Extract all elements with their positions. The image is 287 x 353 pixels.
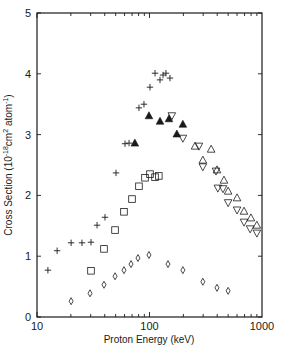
open-square-marker [88, 267, 95, 274]
open-square-marker [129, 196, 136, 203]
open-triangle-down-marker [246, 226, 254, 233]
open-diamond-marker [136, 255, 140, 262]
open-triangle-down-marker [253, 230, 261, 237]
open-triangle-up-marker [233, 194, 241, 201]
open-triangle-down-marker [233, 207, 241, 214]
y-axis-title-close: ) [3, 94, 14, 97]
filled-triangle-marker [131, 139, 139, 146]
open-triangle-up-marker [220, 176, 228, 183]
y-axis-title-mid: cm [3, 133, 14, 146]
x-tick-label: 10 [31, 320, 43, 332]
open-diamond-marker [88, 290, 92, 297]
open-diamond-marker [201, 278, 205, 285]
plus-marker [68, 240, 74, 246]
y-tick-label: 0 [25, 311, 31, 323]
y-tick-label: 1 [25, 250, 31, 262]
plus-marker [122, 141, 128, 147]
plus-marker [79, 240, 85, 246]
open-diamond-marker [69, 298, 73, 305]
open-triangle-down-marker [224, 200, 232, 207]
y-tick-label: 4 [25, 68, 31, 80]
plot-frame [37, 13, 262, 317]
open-diamond-marker [166, 261, 170, 268]
plus-marker [94, 222, 100, 228]
plus-marker [152, 70, 158, 76]
y-axis-title-tail: atom [3, 104, 14, 129]
plot-border [37, 13, 262, 317]
open-triangle-up-marker [253, 221, 261, 228]
y-tick-label: 2 [25, 189, 31, 201]
y-axis-title: Cross Section (10-18cm2 atom-1) [2, 94, 14, 235]
filled-triangle-marker [156, 117, 164, 124]
open-diamond-marker [113, 273, 117, 280]
filled-triangle-marker [165, 115, 173, 122]
open-diamond-marker [122, 267, 126, 274]
plus-marker [167, 75, 173, 81]
plus-marker [102, 214, 108, 220]
plus-marker [45, 267, 51, 273]
chart: 101001000 012345 Proton Energy (keV) Cro… [0, 0, 287, 353]
y-tick-label: 3 [25, 129, 31, 141]
open-diamond-marker [129, 261, 133, 268]
y-tick-labels: 012345 [25, 7, 31, 323]
open-triangle-down-marker [199, 164, 207, 171]
open-square-marker [121, 209, 128, 216]
open-diamond-marker [147, 251, 151, 258]
plus-marker [54, 248, 60, 254]
plus-marker [147, 84, 153, 90]
open-triangle-up-marker [247, 214, 255, 221]
open-diamond-marker [181, 267, 185, 274]
open-square-marker [101, 246, 108, 253]
filled-triangle-marker [179, 120, 187, 127]
open-triangle-up-marker [240, 207, 248, 214]
x-tick-label: 1000 [250, 320, 274, 332]
axis-ticks [37, 13, 262, 317]
open-triangle-up-marker [199, 156, 207, 163]
open-diamond-marker [215, 284, 219, 291]
filled-triangle-marker [145, 112, 153, 119]
open-triangle-up-marker [207, 145, 215, 152]
y-tick-label: 5 [25, 7, 31, 19]
y-axis-title-exp1: -18 [2, 146, 9, 156]
open-diamond-marker [102, 281, 106, 288]
x-axis-title: Proton Energy (keV) [104, 334, 195, 345]
plus-marker [136, 105, 142, 111]
open-triangle-down-marker [240, 219, 248, 226]
open-square-marker [112, 227, 119, 234]
plus-marker [157, 77, 163, 83]
plus-marker [88, 239, 94, 245]
open-square-marker [136, 183, 143, 190]
x-tick-label: 100 [140, 320, 158, 332]
data-points [45, 70, 261, 305]
plus-marker [113, 170, 119, 176]
x-tick-labels: 101001000 [31, 320, 274, 332]
open-diamond-marker [226, 287, 230, 294]
y-axis-title-main: Cross Section (10 [3, 156, 14, 236]
plus-marker [141, 101, 147, 107]
